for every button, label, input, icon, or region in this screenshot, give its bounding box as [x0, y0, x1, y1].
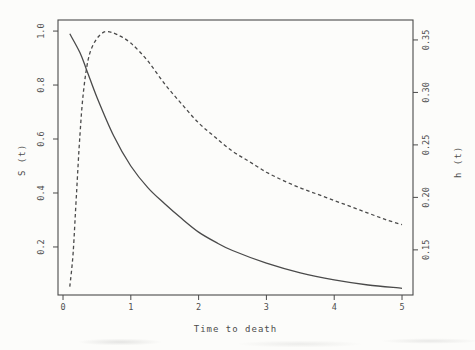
x-tick-label: 0 [60, 302, 65, 312]
right-tick-label: 0.35 [421, 30, 431, 50]
plot-frame [58, 20, 413, 295]
left-tick-label: 1.0 [36, 23, 46, 38]
survival-hazard-plot-page: 0123450.20.40.60.81.00.150.200.250.300.3… [0, 0, 475, 350]
right-y-axis-label: h (t) [453, 138, 465, 186]
x-tick-label: 1 [128, 302, 133, 312]
survival-curve [70, 34, 402, 288]
right-tick-label: 0.30 [421, 82, 431, 102]
left-tick-label: 0.8 [36, 77, 46, 92]
x-tick-label: 3 [264, 302, 269, 312]
left-tick-label: 0.2 [36, 239, 46, 254]
left-tick-label: 0.6 [36, 131, 46, 146]
x-tick-label: 4 [332, 302, 337, 312]
left-y-axis-label: S (t) [17, 136, 29, 184]
right-tick-label: 0.25 [421, 135, 431, 155]
right-tick-label: 0.20 [421, 187, 431, 207]
right-tick-label: 0.15 [421, 240, 431, 260]
left-tick-label: 0.4 [36, 185, 46, 200]
x-axis-label: Time to death [58, 324, 413, 334]
chart-canvas: 0123450.20.40.60.81.00.150.200.250.300.3… [0, 0, 475, 350]
x-tick-label: 2 [196, 302, 201, 312]
x-tick-label: 5 [399, 302, 404, 312]
hazard-curve [70, 32, 402, 287]
